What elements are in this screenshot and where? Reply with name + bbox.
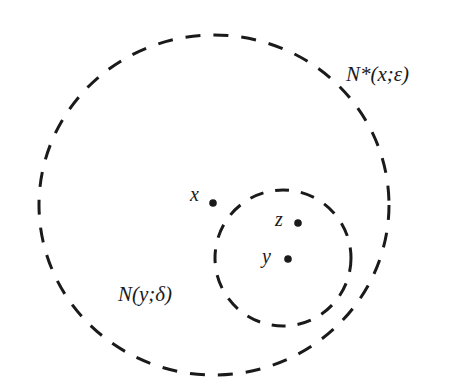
point-z-dot bbox=[294, 219, 302, 227]
outer-neighborhood-label: N*(x;ε) bbox=[346, 62, 409, 87]
neighborhood-diagram bbox=[0, 0, 462, 391]
point-x-dot bbox=[209, 199, 217, 207]
inner-neighborhood-circle bbox=[215, 190, 351, 326]
point-y-dot bbox=[284, 255, 292, 263]
point-z-label: z bbox=[275, 208, 283, 231]
inner-neighborhood-label: N(y;δ) bbox=[118, 282, 172, 307]
point-y-label: y bbox=[262, 245, 271, 268]
point-x-label: x bbox=[190, 183, 199, 206]
